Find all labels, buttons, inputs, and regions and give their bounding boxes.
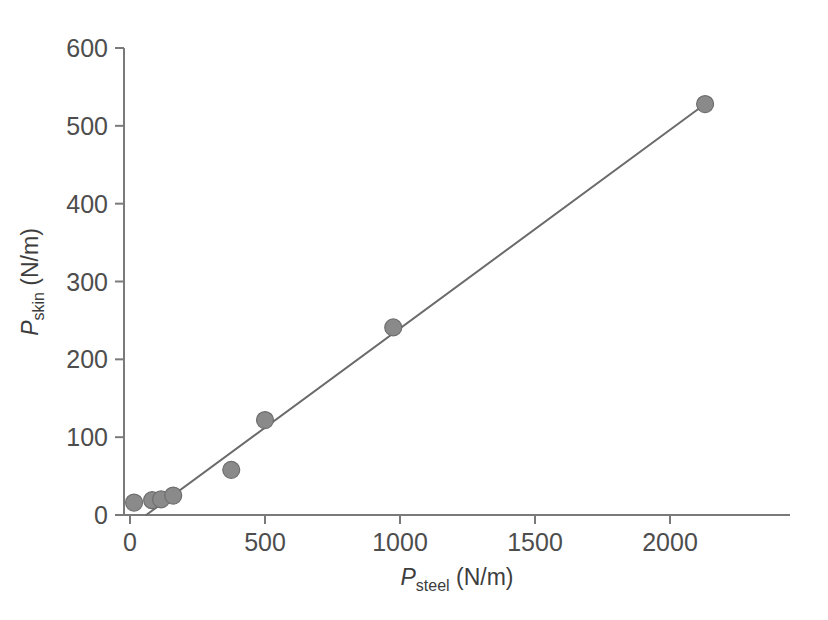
data-point bbox=[257, 412, 274, 429]
y-axis-ticks bbox=[115, 48, 124, 515]
x-axis-tick-labels: 0500100015002000 bbox=[123, 528, 698, 556]
y-tick-label: 100 bbox=[66, 423, 108, 451]
regression-line bbox=[146, 104, 705, 515]
data-point bbox=[126, 494, 143, 511]
y-axis-tick-labels: 0100200300400500600 bbox=[66, 34, 108, 529]
x-tick-label: 1500 bbox=[507, 528, 563, 556]
y-tick-label: 0 bbox=[94, 501, 108, 529]
data-point bbox=[697, 96, 714, 113]
x-axis-title: Psteel (N/m) bbox=[400, 564, 513, 594]
x-tick-label: 0 bbox=[123, 528, 137, 556]
scatter-plot: 0100200300400500600 0500100015002000 Pst… bbox=[0, 0, 828, 620]
x-tick-label: 500 bbox=[244, 528, 286, 556]
x-tick-label: 1000 bbox=[372, 528, 428, 556]
data-point bbox=[165, 487, 182, 504]
y-tick-label: 300 bbox=[66, 268, 108, 296]
y-tick-label: 600 bbox=[66, 34, 108, 62]
data-point-markers bbox=[126, 96, 714, 512]
data-point bbox=[223, 461, 240, 478]
x-axis-ticks bbox=[130, 515, 670, 524]
y-tick-label: 500 bbox=[66, 112, 108, 140]
plot-axes bbox=[124, 48, 790, 515]
x-tick-label: 2000 bbox=[642, 528, 698, 556]
data-point bbox=[385, 319, 402, 336]
y-axis-title: Pskin (N/m) bbox=[17, 228, 47, 336]
fit-line bbox=[146, 104, 705, 515]
y-tick-label: 400 bbox=[66, 190, 108, 218]
y-tick-label: 200 bbox=[66, 345, 108, 373]
chart-page: 0100200300400500600 0500100015002000 Pst… bbox=[0, 0, 828, 620]
